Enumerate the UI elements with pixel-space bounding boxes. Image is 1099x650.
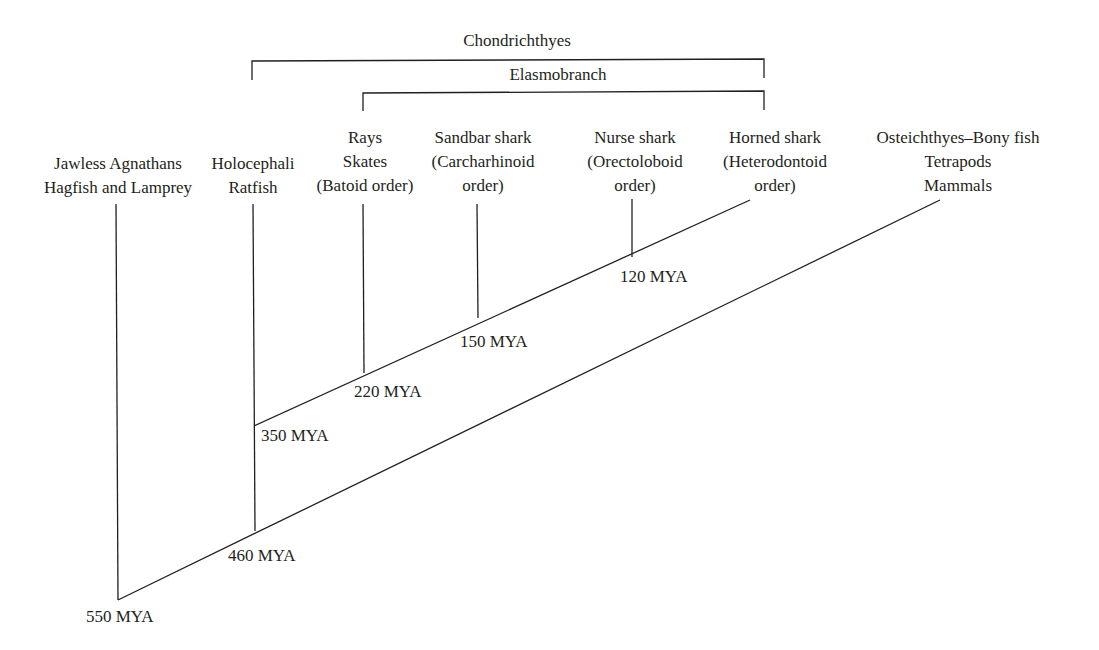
- taxon-line: order): [423, 174, 543, 198]
- branch-horned-shark: [254, 200, 750, 426]
- taxon-line: order): [575, 174, 695, 198]
- divergence-120-mya: 120 MYA: [620, 267, 688, 287]
- taxon-line: Holocephali: [203, 152, 303, 176]
- taxon-line: (Orectoloboid: [575, 150, 695, 174]
- taxon-holocephali: Holocephali Ratfish: [203, 152, 303, 200]
- taxon-line: (Heterodontoid: [710, 150, 840, 174]
- taxon-line: Sandbar shark: [423, 126, 543, 150]
- divergence-460-mya: 460 MYA: [228, 546, 296, 566]
- taxon-line: Jawless Agnathans: [18, 152, 218, 176]
- branch-sandbar-shark: [477, 204, 478, 318]
- taxon-line: Horned shark: [710, 126, 840, 150]
- branch-rays: [363, 204, 364, 373]
- taxon-line: (Batoid order): [305, 174, 425, 198]
- taxon-nurse-shark: Nurse shark (Orectoloboid order): [575, 126, 695, 198]
- taxon-line: Tetrapods: [848, 150, 1068, 174]
- branch-jawless: [116, 204, 118, 600]
- branch-holocephali: [253, 204, 255, 531]
- group-label-elasmobranch: Elasmobranch: [458, 65, 658, 85]
- taxon-line: Osteichthyes–Bony fish: [848, 126, 1068, 150]
- taxon-line: Mammals: [848, 174, 1068, 198]
- divergence-550-mya: 550 MYA: [86, 607, 154, 627]
- taxon-horned-shark: Horned shark (Heterodontoid order): [710, 126, 840, 198]
- taxon-line: Rays: [305, 126, 425, 150]
- taxon-line: Ratfish: [203, 176, 303, 200]
- taxon-line: Nurse shark: [575, 126, 695, 150]
- branch-osteichthyes: [118, 200, 940, 600]
- taxon-rays-skates: Rays Skates (Batoid order): [305, 126, 425, 198]
- phylogenetic-tree: [0, 0, 1099, 650]
- divergence-150-mya: 150 MYA: [460, 332, 528, 352]
- taxon-jawless-agnathans: Jawless Agnathans Hagfish and Lamprey: [18, 152, 218, 200]
- taxon-sandbar-shark: Sandbar shark (Carcharhinoid order): [423, 126, 543, 198]
- taxon-osteichthyes: Osteichthyes–Bony fish Tetrapods Mammals: [848, 126, 1068, 198]
- taxon-line: (Carcharhinoid: [423, 150, 543, 174]
- group-label-chondrichthyes: Chondrichthyes: [417, 31, 617, 51]
- divergence-350-mya: 350 MYA: [261, 426, 329, 446]
- elasmobranch-bracket: [363, 91, 764, 111]
- taxon-line: Hagfish and Lamprey: [18, 176, 218, 200]
- divergence-220-mya: 220 MYA: [354, 382, 422, 402]
- taxon-line: Skates: [305, 150, 425, 174]
- taxon-line: order): [710, 174, 840, 198]
